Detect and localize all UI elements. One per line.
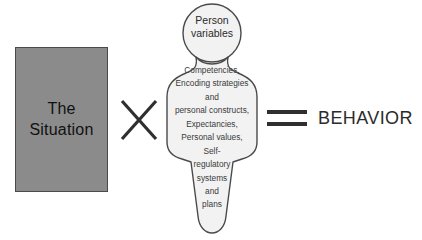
multiply-operator-icon	[118, 96, 160, 144]
person-silhouette-icon	[160, 2, 264, 238]
equals-operator-icon	[267, 108, 307, 132]
equals-bar-top	[267, 110, 307, 114]
situation-box: The Situation	[15, 47, 108, 192]
equals-bar-bottom	[267, 122, 307, 126]
situation-label: The Situation	[29, 99, 93, 140]
behavior-label: BEHAVIOR	[318, 108, 413, 129]
diagram-canvas: The Situation Person variables Competenc…	[0, 0, 422, 240]
